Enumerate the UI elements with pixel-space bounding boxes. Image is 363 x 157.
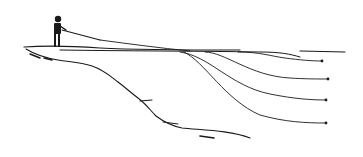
line-deep [184, 52, 326, 123]
cliff-crack-3 [200, 136, 214, 138]
cliff-top-edge [24, 46, 240, 50]
sinker-mid-shallow [327, 78, 330, 81]
sinker-shallow [321, 60, 324, 63]
cliff-crack-1 [140, 100, 152, 101]
sinker-mid-deep [325, 99, 328, 102]
cliff-crack-2 [163, 122, 178, 124]
water-surface [60, 50, 300, 57]
cliff-face [26, 49, 250, 138]
line-mid-shallow [205, 52, 328, 79]
sinker-deep [325, 122, 328, 125]
fishing-rod [62, 30, 100, 40]
cliff-rock-shading [30, 54, 52, 60]
line-mid-deep [180, 52, 326, 100]
water-surface-far [300, 51, 345, 52]
fishing-illustration [0, 0, 363, 157]
